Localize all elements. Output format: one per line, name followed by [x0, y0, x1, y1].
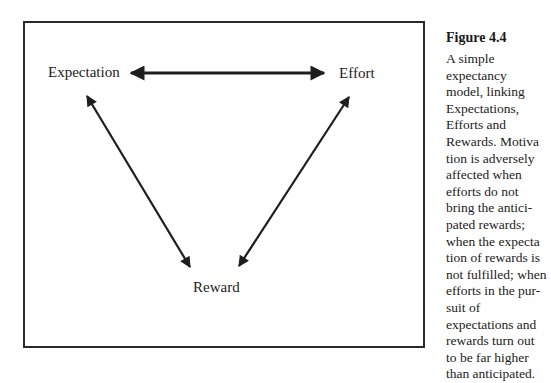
caption-line: tion is adversely — [446, 151, 551, 168]
caption-line: bring the antici- — [446, 200, 551, 217]
node-expectation: Expectation — [48, 64, 120, 81]
caption-line: not fulfilled; when — [446, 267, 551, 284]
caption-line: affected when — [446, 167, 551, 184]
arrow-expectation-reward — [87, 96, 190, 267]
caption-line: suit of — [446, 300, 551, 317]
caption-line: A simple — [446, 51, 551, 68]
figure-title: Figure 4.4 — [446, 29, 551, 47]
caption-line: expectancy — [446, 68, 551, 85]
caption-line: tion of rewards is — [446, 250, 551, 267]
caption-line: when the expecta — [446, 234, 551, 251]
caption-line: rewards turn out — [446, 333, 551, 350]
caption-line: efforts in the pur- — [446, 283, 551, 300]
caption-line: efforts do not — [446, 184, 551, 201]
caption-text: A simple expectancy model, linking Expec… — [446, 51, 551, 383]
caption-line: Expectations, — [446, 101, 551, 118]
node-effort: Effort — [339, 65, 375, 82]
caption-line: Rewards. Motiva — [446, 134, 551, 151]
caption-line: to be far higher — [446, 350, 551, 367]
node-reward: Reward — [193, 279, 240, 296]
figure-caption: Figure 4.4 A simple expectancy model, li… — [446, 29, 551, 383]
caption-line: than anticipated. — [446, 366, 551, 383]
caption-line: expectations and — [446, 317, 551, 334]
caption-line: model, linking — [446, 84, 551, 101]
arrow-effort-reward — [239, 97, 349, 266]
caption-line: Efforts and — [446, 117, 551, 134]
caption-line: pated rewards; — [446, 217, 551, 234]
